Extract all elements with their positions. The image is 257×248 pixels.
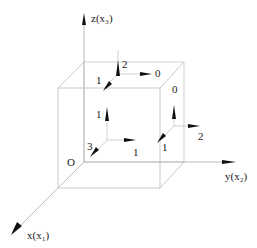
right-z-arrow	[172, 105, 176, 119]
front-x-value: 3	[87, 140, 93, 152]
top-y-arrow	[140, 72, 152, 76]
top-x-arrow	[103, 81, 112, 91]
y-axis-arrowhead	[222, 160, 236, 164]
right-y-arrow	[188, 124, 200, 128]
top-x-value: 1	[96, 74, 102, 86]
component-guides	[96, 50, 190, 152]
x-axis	[18, 162, 84, 228]
right-x-value: 1	[162, 141, 168, 153]
right-z-value: 0	[172, 83, 178, 95]
x-axis-arrowhead	[11, 222, 22, 235]
right-y-value: 2	[198, 130, 204, 142]
stress-cube-diagram: z(x₃) y(x₂) x(x₁) O 2 0 1 0 2 1 1 1 3	[0, 0, 257, 248]
z-axis-label: z(x₃)	[91, 12, 113, 25]
front-z-value: 1	[96, 108, 102, 120]
y-axis-label: y(x₂)	[225, 170, 247, 183]
front-z-arrow	[105, 107, 109, 121]
coordinate-axes	[18, 20, 228, 228]
x-axis-label: x(x₁)	[27, 229, 49, 242]
front-y-arrow	[124, 138, 136, 142]
origin-label: O	[67, 156, 75, 168]
z-axis-arrowhead	[82, 13, 86, 25]
top-y-value: 0	[155, 67, 161, 79]
top-z-value: 2	[122, 58, 128, 70]
front-y-value: 1	[133, 146, 139, 158]
